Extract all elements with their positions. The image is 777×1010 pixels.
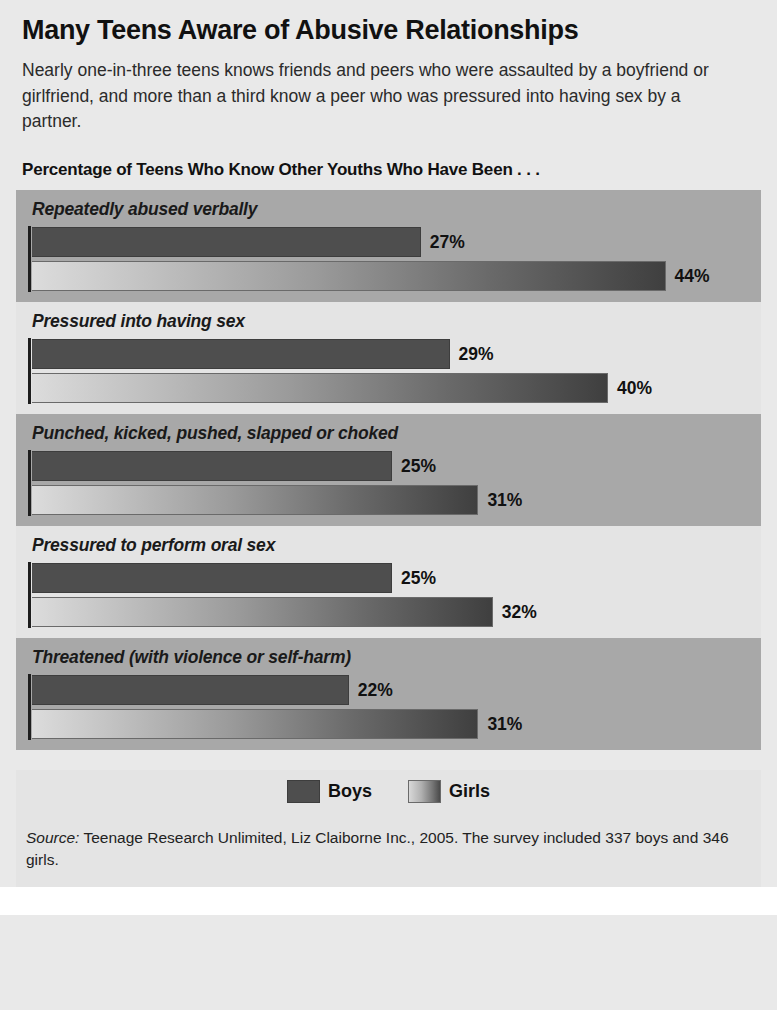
bar-group-bars: 25%32%	[28, 562, 761, 628]
chart-axis-line	[28, 562, 31, 628]
bar-row[interactable]: 44%	[32, 260, 761, 292]
bar-girls[interactable]	[32, 597, 493, 627]
legend-swatch-girls-icon	[408, 780, 441, 803]
bar-value-label: 40%	[617, 378, 652, 399]
bar-chart-plot: Repeatedly abused verbally27%44%Pressure…	[16, 190, 761, 750]
chart-axis-line	[28, 450, 31, 516]
bar-row[interactable]: 32%	[32, 596, 761, 628]
infographic-figure: Many Teens Aware of Abusive Relationship…	[0, 0, 777, 1010]
chart-axis-label: Percentage of Teens Who Know Other Youth…	[22, 160, 761, 180]
bar-group: Repeatedly abused verbally27%44%	[16, 190, 761, 302]
source-prefix: Source:	[26, 829, 79, 846]
bar-row[interactable]: 40%	[32, 372, 761, 404]
chart-axis-line	[28, 338, 31, 404]
bar-value-label: 29%	[459, 344, 494, 365]
figure-header: Many Teens Aware of Abusive Relationship…	[0, 0, 777, 180]
bar-value-label: 31%	[487, 714, 522, 735]
bar-boys[interactable]	[32, 563, 392, 593]
bar-value-label: 31%	[487, 490, 522, 511]
bar-value-label: 44%	[675, 266, 710, 287]
bar-group-label: Repeatedly abused verbally	[32, 199, 761, 220]
legend-item-boys[interactable]: Boys	[287, 780, 372, 803]
bar-girls[interactable]	[32, 485, 478, 515]
bar-value-label: 22%	[358, 680, 393, 701]
chart-axis-line	[28, 226, 31, 292]
bar-group: Pressured into having sex29%40%	[16, 302, 761, 414]
legend-label-boys: Boys	[328, 781, 372, 802]
legend-swatch-boys-icon	[287, 780, 320, 803]
bar-group-bars: 29%40%	[28, 338, 761, 404]
source-note: Source: Teenage Research Unlimited, Liz …	[16, 809, 761, 886]
bar-girls[interactable]	[32, 261, 666, 291]
chart-legend: Boys Girls	[16, 770, 761, 809]
legend-item-girls[interactable]: Girls	[408, 780, 490, 803]
source-text: Teenage Research Unlimited, Liz Claiborn…	[26, 829, 729, 868]
bar-group-label: Punched, kicked, pushed, slapped or chok…	[32, 423, 761, 444]
bar-row[interactable]: 31%	[32, 708, 761, 740]
bar-row[interactable]: 22%	[32, 674, 761, 706]
bar-group: Pressured to perform oral sex25%32%	[16, 526, 761, 638]
bar-value-label: 25%	[401, 568, 436, 589]
bar-boys[interactable]	[32, 451, 392, 481]
bar-row[interactable]: 25%	[32, 450, 761, 482]
bar-row[interactable]: 29%	[32, 338, 761, 370]
bar-group-bars: 22%31%	[28, 674, 761, 740]
bar-group: Threatened (with violence or self-harm)2…	[16, 638, 761, 750]
bar-value-label: 27%	[430, 232, 465, 253]
bar-group-bars: 25%31%	[28, 450, 761, 516]
bottom-padding	[0, 887, 777, 915]
bar-boys[interactable]	[32, 675, 349, 705]
bar-row[interactable]: 27%	[32, 226, 761, 258]
bar-group: Punched, kicked, pushed, slapped or chok…	[16, 414, 761, 526]
legend-label-girls: Girls	[449, 781, 490, 802]
bar-row[interactable]: 25%	[32, 562, 761, 594]
chart-axis-line	[28, 674, 31, 740]
bar-boys[interactable]	[32, 339, 450, 369]
bar-group-bars: 27%44%	[28, 226, 761, 292]
chart-subtitle: Nearly one-in-three teens knows friends …	[22, 58, 722, 134]
bar-value-label: 32%	[502, 602, 537, 623]
bar-boys[interactable]	[32, 227, 421, 257]
bar-group-label: Pressured into having sex	[32, 311, 761, 332]
bar-group-label: Threatened (with violence or self-harm)	[32, 647, 761, 668]
bar-row[interactable]: 31%	[32, 484, 761, 516]
bar-value-label: 25%	[401, 456, 436, 477]
bar-group-label: Pressured to perform oral sex	[32, 535, 761, 556]
bar-girls[interactable]	[32, 373, 608, 403]
page-title: Many Teens Aware of Abusive Relationship…	[22, 16, 761, 44]
bar-girls[interactable]	[32, 709, 478, 739]
